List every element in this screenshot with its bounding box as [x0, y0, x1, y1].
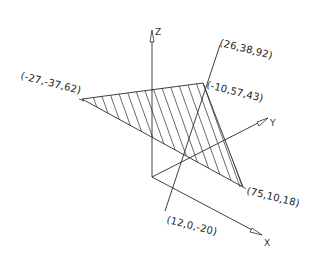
x-axis-label: X	[264, 239, 270, 248]
z-axis-label: Z	[155, 28, 161, 37]
diagram-canvas: Z Y X (-27,-37,62) (-10,57,43) (75,10,18…	[0, 0, 311, 267]
plane-triangle	[80, 60, 256, 200]
x-axis-arrow-icon	[250, 228, 262, 235]
diagram-svg	[0, 0, 311, 267]
y-axis-label: Y	[270, 119, 276, 128]
y-axis-arrow-icon	[257, 118, 268, 126]
y-axis	[152, 121, 262, 177]
intersecting-line	[165, 45, 220, 211]
z-axis-arrow-icon	[150, 30, 154, 42]
